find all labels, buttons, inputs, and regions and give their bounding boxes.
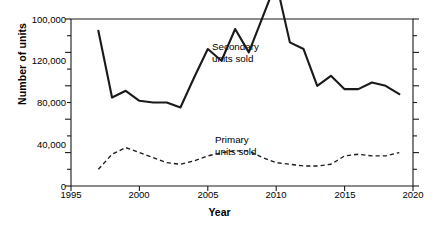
plot-area [0,0,439,230]
chart-figure: Number of units Year 100,000 120,000 80,… [0,0,439,230]
x-axis-ticks [71,186,413,191]
axis-frame [71,19,413,186]
series-line-primary-units-sold [98,148,399,170]
y-axis-ticks [65,19,419,186]
series-line-secondary-units-sold [98,0,399,108]
